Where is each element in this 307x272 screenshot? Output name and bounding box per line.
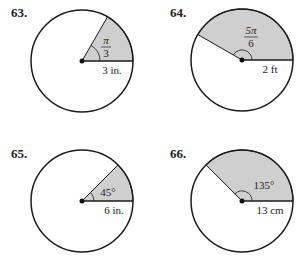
radius-label: 6 in.: [104, 204, 124, 216]
shaded-sector: [206, 150, 293, 201]
angle-label-denominator: 3: [103, 47, 109, 59]
radius-label: 3 in.: [102, 64, 122, 76]
sector-diagrams: 63. π 3 3 in. 64. 5π 6 2 ft 65. 45° 6 in…: [0, 0, 307, 272]
radius-label: 13 cm: [256, 204, 284, 216]
angle-label-numerator: 5π: [245, 24, 257, 36]
center-dot: [240, 58, 245, 63]
problem-number: 64.: [170, 5, 186, 20]
problem-66: 66. 135° 13 cm: [170, 146, 293, 252]
angle-label-denominator: 6: [248, 37, 254, 49]
problem-65: 65. 45° 6 in.: [11, 146, 133, 252]
center-dot: [80, 59, 85, 64]
center-dot: [80, 199, 85, 204]
angle-label-numerator: π: [103, 34, 109, 46]
problem-64: 64. 5π 6 2 ft: [170, 5, 293, 111]
problem-number: 66.: [170, 146, 186, 161]
problem-number: 65.: [11, 146, 27, 161]
problem-63: 63. π 3 3 in.: [11, 5, 133, 112]
radius-label: 2 ft: [263, 63, 278, 75]
angle-label: 135°: [254, 179, 275, 191]
problem-number: 63.: [11, 5, 27, 20]
angle-label: 45°: [100, 186, 115, 198]
center-dot: [240, 199, 245, 204]
